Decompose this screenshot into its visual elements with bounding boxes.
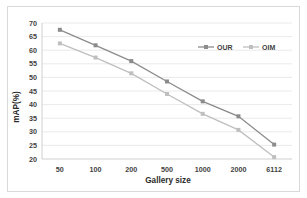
gridlines-group [42,23,292,159]
data-point-marker [165,92,169,96]
x-tick-label: 2000 [230,165,246,174]
y-axis-title: mAP(%) [12,91,21,123]
y-tick-label: 65 [29,32,37,41]
data-point-marker [201,112,205,116]
data-point-marker [201,99,205,103]
series-oim [58,41,276,159]
x-tick-label: 50 [56,165,64,174]
x-tick-label: 1000 [195,165,211,174]
y-tick-label: 50 [29,73,37,82]
x-tick-label: 100 [90,165,102,174]
y-axis-tick-labels: 2025303540455055606570 [29,19,37,164]
data-point-marker [58,28,62,32]
data-point-marker [94,56,98,60]
data-point-marker [165,79,169,83]
chart-figure: 2025303540455055606570 50100200500100020… [0,0,307,198]
data-point-marker [236,114,240,118]
x-axis-title: Gallery size [145,176,191,185]
y-tick-label: 30 [29,127,37,136]
data-point-marker [272,155,276,159]
x-axis-tick-labels: 50100200500100020006112 [56,165,282,174]
legend-item-our[interactable]: OUR [198,44,233,51]
legend-label: OUR [217,44,233,51]
data-point-marker [129,59,133,63]
x-tick-label: 500 [161,165,173,174]
data-point-marker [58,41,62,45]
data-point-marker [236,128,240,132]
y-tick-label: 35 [29,114,37,123]
x-tick-label: 6112 [266,165,282,174]
legend-label: OIM [262,44,275,51]
series-our [58,28,276,147]
y-tick-label: 40 [29,100,37,109]
chart-legend: OUROIM [198,44,275,51]
y-tick-label: 55 [29,59,37,68]
y-tick-label: 45 [29,87,37,96]
y-tick-label: 70 [29,19,37,28]
y-tick-label: 25 [29,141,37,150]
chart-frame: 2025303540455055606570 50100200500100020… [7,6,300,192]
x-tick-label: 200 [125,165,137,174]
data-point-marker [272,143,276,147]
line-chart-plot: 2025303540455055606570 50100200500100020… [8,7,299,191]
data-point-marker [94,43,98,47]
y-tick-label: 60 [29,46,37,55]
data-point-marker [129,71,133,75]
y-tick-label: 20 [29,155,37,164]
legend-item-oim[interactable]: OIM [243,44,275,51]
